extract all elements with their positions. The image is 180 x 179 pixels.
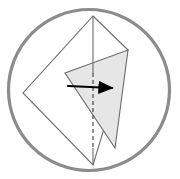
origami-diagram-svg (0, 0, 180, 179)
origami-diagram-container (0, 0, 180, 179)
